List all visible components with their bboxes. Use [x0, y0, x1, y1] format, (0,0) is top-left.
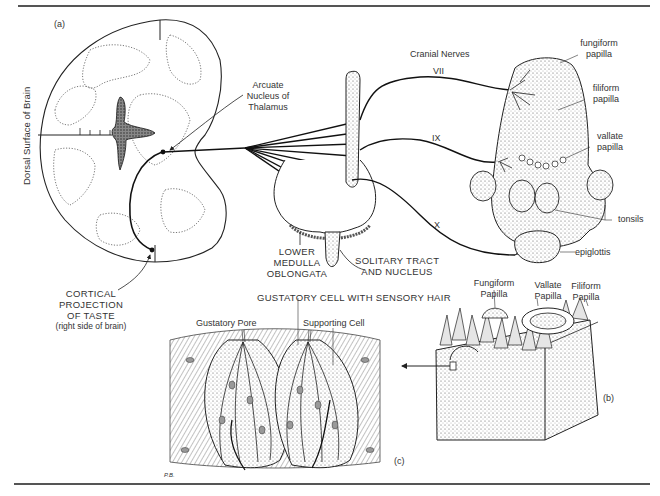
filiform-papilla-label: filiform papilla — [584, 83, 628, 105]
tonsils-label: tonsils — [618, 214, 644, 225]
filiform-papilla-label-b: Filiform Papilla — [566, 281, 606, 303]
dorsal-surface-label: Dorsal Surface of Brain — [21, 87, 32, 185]
medulla-oblongata — [274, 160, 376, 233]
fungiform-papilla-b — [482, 308, 508, 318]
vallate-papilla-label-b: Vallate Papilla — [530, 280, 566, 302]
gustatory-cell-title: GUSTATORY CELL WITH SENSORY HAIR — [257, 292, 451, 303]
cranial-nerves-title: Cranial Nerves — [410, 49, 470, 60]
cortical-projection-label: CORTICAL PROJECTION OF TASTE (right side… — [48, 288, 134, 332]
nerve-label-vii: VII — [433, 66, 444, 77]
epiglottis — [515, 231, 561, 263]
fungiform-papilla-label: fungiform papilla — [574, 38, 624, 60]
epiglottis-label: epiglottis — [575, 247, 611, 258]
taste-bud-box — [450, 362, 456, 370]
solitary-nucleus — [346, 71, 360, 187]
gustatory-pore-label: Gustatory Pore — [196, 318, 257, 329]
vallate-papilla-label: vallate papilla — [590, 131, 630, 153]
nerve-label-ix: IX — [432, 133, 441, 144]
solitary-tract-label: SOLITARY TRACT AND NUCLEUS — [355, 255, 439, 277]
medulla-label: LOWER MEDULLA OBLONGATA — [265, 246, 329, 279]
panel-label-c: (c) — [394, 456, 405, 467]
nerve-label-x: X — [434, 220, 440, 231]
artist-signature: P.B. — [164, 470, 175, 481]
panel-label-b: (b) — [603, 393, 614, 404]
tonsil-left — [470, 171, 496, 201]
nerve-vii — [360, 77, 510, 120]
tongue-surface-block — [436, 290, 598, 440]
brain-section — [38, 20, 226, 262]
thalamus-label: Arcuate Nucleus of Thalamus — [240, 80, 296, 113]
nerve-ix — [360, 139, 498, 162]
illustration — [0, 0, 660, 496]
fungiform-papilla-label-b: Fungiform Papilla — [466, 278, 522, 300]
supporting-cell-label: Supporting Cell — [303, 318, 365, 329]
tonsil-right — [587, 170, 613, 200]
panel-label-a: (a) — [54, 19, 65, 30]
